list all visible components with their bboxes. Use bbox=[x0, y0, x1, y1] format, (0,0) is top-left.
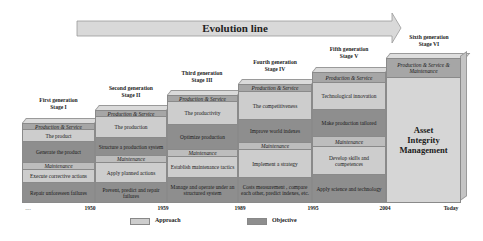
stage-1-column: Production & Service The product Generat… bbox=[22, 118, 95, 203]
production-service-header: Production & Service bbox=[95, 110, 167, 117]
production-approach: The competitiveness bbox=[238, 92, 312, 120]
stage-1-generation: First generation bbox=[22, 97, 95, 104]
production-service-header: Production & Service bbox=[238, 84, 312, 92]
evolution-line-label: Evolution line bbox=[77, 21, 393, 36]
production-approach: Technological innovation bbox=[312, 83, 386, 110]
stage-6-column: Production & Service & Maintenance Asset… bbox=[386, 53, 468, 203]
stage-1-label: First generation Stage I bbox=[22, 97, 95, 111]
maintenance-objective: Repair unforeseen failures bbox=[22, 183, 95, 203]
maintenance-approach: Execute corrective actions bbox=[22, 170, 95, 183]
maintenance-approach: Implement a strategy bbox=[238, 150, 312, 178]
combined-service-maintenance-header: Production & Service & Maintenance bbox=[386, 58, 461, 78]
maintenance-header: Maintenance bbox=[312, 137, 386, 147]
stage-1-number: Stage I bbox=[22, 104, 95, 111]
stage-5-label: Fifth generation Stage V bbox=[312, 46, 386, 60]
maintenance-header: Maintenance bbox=[95, 156, 167, 163]
stage-5-generation: Fifth generation bbox=[312, 46, 386, 53]
timeline-label-today: Today bbox=[436, 205, 466, 211]
production-objective: Generate the product bbox=[22, 142, 95, 163]
production-approach: The production bbox=[95, 117, 167, 138]
timeline-label-1995: 1995 bbox=[298, 205, 328, 211]
stage-2-label: Second generation Stage II bbox=[95, 85, 167, 99]
legend-approach-swatch bbox=[130, 218, 150, 225]
maintenance-approach: Establish maintenance tactics bbox=[167, 157, 238, 178]
timeline-label-1950: 1950 bbox=[75, 205, 105, 211]
maintenance-approach: Develop skills and competences bbox=[312, 147, 386, 175]
stage-3-number: Stage III bbox=[167, 77, 237, 84]
stage-3-generation: Third generation bbox=[167, 70, 237, 77]
maintenance-approach: Apply planned actions bbox=[95, 163, 167, 183]
production-objective: Improve world indexes bbox=[238, 120, 312, 143]
stage-6-label: Sixth generation Stage VI bbox=[390, 34, 468, 48]
production-objective: Structure a production system bbox=[95, 138, 167, 156]
stage-4-generation: Fourth generation bbox=[238, 59, 312, 66]
stage-4-label: Fourth generation Stage IV bbox=[238, 59, 312, 73]
production-service-header: Production & Service bbox=[167, 95, 238, 102]
legend-objective-swatch bbox=[247, 218, 267, 225]
maintenance-header: Maintenance bbox=[238, 143, 312, 150]
stage-5-column: Production & Service Technological innov… bbox=[312, 67, 386, 203]
production-service-header: Production & Service bbox=[22, 123, 95, 130]
stage-6-number: Stage VI bbox=[390, 41, 468, 48]
production-approach: The product bbox=[22, 130, 95, 142]
maintenance-objective: Apply science and technology bbox=[312, 175, 386, 203]
maintenance-objective: Costs measurement , compare each other, … bbox=[238, 178, 312, 203]
stage-2-generation: Second generation bbox=[95, 85, 167, 92]
timeline-label-start: .... bbox=[13, 205, 43, 211]
production-objective: Make production tailored bbox=[312, 110, 386, 137]
asset-integrity-management-block: Asset Integrity Management bbox=[386, 78, 461, 203]
stage-4-number: Stage IV bbox=[238, 66, 312, 73]
production-approach: The productivity bbox=[167, 102, 238, 125]
stage-3-label: Third generation Stage III bbox=[167, 70, 237, 84]
timeline-label-1989: 1989 bbox=[225, 205, 255, 211]
production-objective: Optimize production bbox=[167, 125, 238, 150]
stage-2-column: Production & Service The production Stru… bbox=[95, 105, 167, 203]
maintenance-objective: Prevent, predict and repair failures bbox=[95, 183, 167, 203]
stage-4-column: Production & Service The competitiveness… bbox=[238, 79, 312, 203]
maintenance-header: Maintenance bbox=[167, 150, 238, 157]
legend-objective-label: Objective bbox=[272, 217, 297, 223]
stage-5-number: Stage V bbox=[312, 53, 386, 60]
timeline-label-1959: 1959 bbox=[148, 205, 178, 211]
stage-2-number: Stage II bbox=[95, 92, 167, 99]
production-service-header: Production & Service bbox=[312, 72, 386, 83]
timeline-label-2004: 2004 bbox=[370, 205, 400, 211]
maintenance-objective: Manage and operate under an structured s… bbox=[167, 178, 238, 203]
stage-3-column: Production & Service The productivity Op… bbox=[167, 90, 238, 203]
stage-6-generation: Sixth generation bbox=[390, 34, 468, 41]
maintenance-header: Maintenance bbox=[22, 163, 95, 170]
legend-approach-label: Approach bbox=[155, 217, 181, 223]
column-side-face bbox=[460, 51, 467, 201]
